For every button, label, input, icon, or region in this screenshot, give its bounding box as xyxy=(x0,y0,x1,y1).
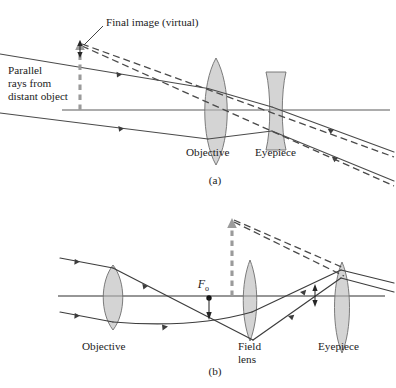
upper-ray-after-objective-b xyxy=(113,268,253,340)
lower-ray-after-objective-arrowhead-b xyxy=(162,325,168,331)
panel-caption-a: (a) xyxy=(209,174,222,187)
final-image-label: Final image (virtual) xyxy=(106,16,199,29)
objective-label-b: Objective xyxy=(82,340,126,352)
panel-caption-b: (b) xyxy=(208,365,221,378)
virtual-image-dashed-ray-lower-a xyxy=(82,46,394,186)
upper-ray-field-to-eyepiece-b xyxy=(253,278,341,340)
eyepiece-label-b: Eyepiece xyxy=(318,340,359,352)
field-lens-label-line1-b: Field xyxy=(238,340,261,352)
eyepiece-label-a: Eyepiece xyxy=(255,146,296,158)
focal-point-label-subscript-b: o xyxy=(205,284,209,293)
optics-figure: Final image (virtual) Parallel rays from… xyxy=(0,0,396,388)
objective-label-a: Objective xyxy=(186,146,230,158)
lower-ray-field-to-eyepiece-b xyxy=(252,270,341,312)
upper-ray-field-to-eyepiece-arrowhead-b xyxy=(288,315,294,321)
lower-incoming-ray-arrowhead-b xyxy=(74,313,80,319)
upper-incoming-ray-arrowhead-b xyxy=(74,259,80,265)
final-image-leader-a xyxy=(84,26,103,45)
lower-ray-field-to-eyepiece-arrowhead-b xyxy=(300,290,306,296)
incoming-rays-label-line3: distant object xyxy=(8,90,69,102)
panel-b: F o Objective Field lens Eyepiece (b) xyxy=(58,218,394,378)
upper-ray-exit-arrowhead-a xyxy=(328,129,334,134)
field-lens-label-line2-b: lens xyxy=(238,353,256,365)
lower-ray-exit-b xyxy=(341,270,394,283)
lower-ray-after-objective-b xyxy=(113,312,252,324)
virtual-image-dashed-ray-upper-a xyxy=(82,44,394,157)
image-height-tick-head-down-a xyxy=(77,52,82,58)
lower-incoming-ray-arrowhead-a xyxy=(118,126,124,132)
incoming-rays-label-line2: rays from xyxy=(8,77,51,89)
upper-incoming-ray-b xyxy=(60,258,113,268)
image-height-tick-head-down-b xyxy=(312,300,317,307)
panel-a: Final image (virtual) Parallel rays from… xyxy=(0,16,394,187)
incoming-rays-label-line1: Parallel xyxy=(8,64,42,76)
upper-incoming-ray-arrowhead-a xyxy=(117,72,123,78)
figure-canvas: Final image (virtual) Parallel rays from… xyxy=(0,0,396,388)
image-height-tick-head-up-b xyxy=(312,284,317,291)
image-height-tick-head-up-a xyxy=(77,40,82,46)
lower-incoming-ray-a xyxy=(0,113,208,139)
field-lens-b xyxy=(243,260,257,341)
